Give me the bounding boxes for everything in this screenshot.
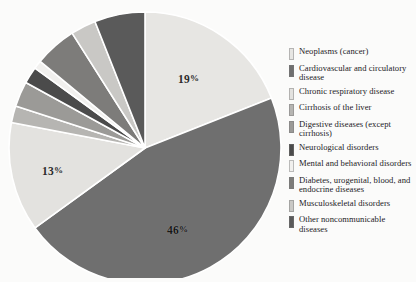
legend-swatch-icon: [289, 177, 294, 189]
legend-item-label: Digestive diseases (except cirrhosis): [299, 120, 413, 140]
legend-item-label: Other noncommunicable diseases: [299, 215, 413, 235]
pie-chart-figure: 19% 13% 46% Neoplasms (cancer)Cardiovasc…: [0, 0, 416, 282]
legend-item[interactable]: Mental and behavioral disorders: [289, 159, 413, 172]
legend-item[interactable]: Chronic respiratory disease: [289, 87, 413, 100]
legend-swatch-icon: [289, 65, 294, 77]
pie-chart-plot-area: 19% 13% 46%: [8, 6, 284, 278]
pie-slice-value-cardiovascular: 46%: [167, 225, 188, 237]
legend-item[interactable]: Digestive diseases (except cirrhosis): [289, 120, 413, 140]
legend-item[interactable]: Diabetes, urogenital, blood, and endocri…: [289, 176, 413, 196]
legend-item-label: Mental and behavioral disorders: [299, 159, 412, 169]
legend-item-label: Musculoskeletal disorders: [299, 199, 390, 209]
pie-slice-value-chronic-respiratory: 13%: [42, 166, 63, 178]
legend-item-label: Neoplasms (cancer): [299, 47, 368, 57]
legend-item[interactable]: Musculoskeletal disorders: [289, 199, 413, 212]
legend-item[interactable]: Cardiovascular and circulatory disease: [289, 64, 413, 84]
percent-sign: %: [190, 73, 199, 83]
pie-slice-group: [9, 12, 281, 278]
legend-swatch-icon: [289, 104, 294, 116]
legend-swatch-icon: [289, 160, 294, 172]
legend-swatch-icon: [289, 88, 294, 100]
legend-item[interactable]: Other noncommunicable diseases: [289, 215, 413, 235]
legend-swatch-icon: [289, 200, 294, 212]
pie-slice-value-neoplasms: 19%: [178, 74, 199, 86]
pie-chart-svg: [8, 6, 284, 278]
chart-legend: Neoplasms (cancer)Cardiovascular and cir…: [289, 47, 413, 238]
legend-item-label: Chronic respiratory disease: [299, 87, 394, 97]
legend-swatch-icon: [289, 216, 294, 228]
legend-swatch-icon: [289, 121, 294, 133]
legend-item-label: Diabetes, urogenital, blood, and endocri…: [299, 176, 413, 196]
legend-swatch-icon: [289, 48, 294, 60]
legend-item[interactable]: Neoplasms (cancer): [289, 47, 413, 60]
legend-item-label: Cardiovascular and circulatory disease: [299, 64, 413, 84]
legend-item[interactable]: Cirrhosis of the liver: [289, 103, 413, 116]
legend-item[interactable]: Neurological disorders: [289, 143, 413, 156]
legend-item-label: Cirrhosis of the liver: [299, 103, 371, 113]
legend-item-label: Neurological disorders: [299, 143, 379, 153]
percent-sign: %: [179, 224, 188, 234]
legend-swatch-icon: [289, 144, 294, 156]
percent-sign: %: [54, 165, 63, 175]
